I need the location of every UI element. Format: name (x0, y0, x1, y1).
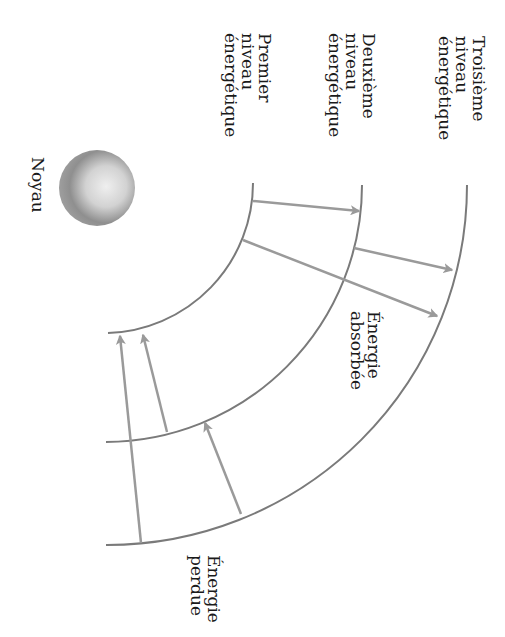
level-arc-deuxieme (106, 185, 362, 442)
label-noyau: Noyau (29, 157, 46, 213)
arrow-lost-3-to-2 (205, 423, 241, 514)
label-troisieme-niveau: Troisième niveau énergétique (436, 36, 487, 140)
arrow-absorbed-1-to-2 (253, 201, 359, 211)
label-line: niveau (453, 36, 470, 140)
level-arc-troisieme (106, 185, 467, 545)
label-line: Énergie (205, 555, 222, 623)
label-line: perdue (188, 555, 205, 623)
label-line: Troisième (470, 36, 487, 140)
label-energie-absorbee: Énergie absorbée (348, 311, 382, 390)
label-line: énergétique (436, 36, 453, 140)
label-premier-niveau: Premier niveau énergétique (222, 33, 273, 137)
arrow-absorbed-2-to-3 (354, 248, 452, 270)
label-line: énergétique (222, 33, 239, 137)
nucleus-label: Noyau (29, 157, 46, 213)
label-line: énergétique (326, 33, 343, 137)
label-line: absorbée (348, 311, 365, 390)
arrow-lost-2-to-1 (143, 335, 167, 432)
label-line: niveau (239, 33, 256, 137)
label-energie-perdue: Énergie perdue (188, 555, 222, 623)
nucleus-sphere (59, 150, 135, 226)
label-line: Deuxième (360, 33, 377, 137)
label-line: niveau (343, 33, 360, 137)
energy-level-diagram: Troisième niveau énergétique Deuxième ni… (0, 0, 505, 637)
arrow-absorbed-1-to-3 (243, 240, 437, 316)
label-line: Premier (256, 33, 273, 137)
label-line: Énergie (365, 311, 382, 390)
label-deuxieme-niveau: Deuxième niveau énergétique (326, 33, 377, 137)
